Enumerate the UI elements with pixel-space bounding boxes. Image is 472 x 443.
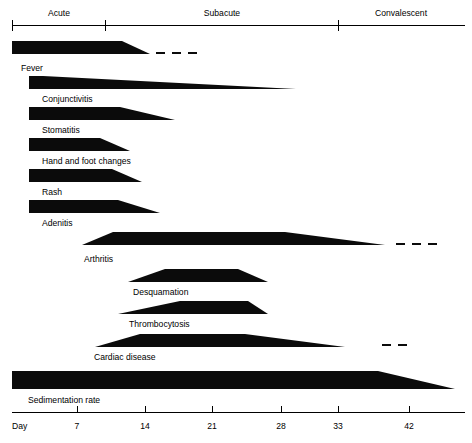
band-shape-rash bbox=[29, 169, 142, 182]
day-axis: Day 7 14 21 28 33 42 bbox=[12, 406, 465, 431]
band-label-hand-and-foot-changes: Hand and foot changes bbox=[42, 156, 131, 166]
band-label-rash: Rash bbox=[42, 187, 62, 197]
band-label-stomatitis: Stomatitis bbox=[42, 125, 80, 135]
band-label-cardiac-disease: Cardiac disease bbox=[94, 352, 156, 362]
band-adenitis: Adenitis bbox=[29, 200, 160, 228]
band-shape-desquamation bbox=[128, 269, 268, 282]
band-hand-and-foot-changes: Hand and foot changes bbox=[29, 138, 131, 166]
band-shape-stomatitis bbox=[29, 107, 175, 120]
phase-label-convalescent: Convalescent bbox=[375, 8, 428, 18]
band-label-fever: Fever bbox=[21, 63, 43, 73]
day-axis-label-14: 14 bbox=[140, 421, 150, 431]
day-axis-label-7: 7 bbox=[75, 421, 80, 431]
band-shape-hand-and-foot-changes bbox=[29, 138, 130, 151]
day-axis-label-33: 33 bbox=[333, 421, 343, 431]
band-shape-fever bbox=[12, 41, 150, 54]
band-shape-conjunctivitis bbox=[29, 76, 296, 89]
band-arthritis: Arthritis bbox=[82, 232, 437, 264]
day-axis-label-21: 21 bbox=[207, 421, 217, 431]
phase-label-subacute: Subacute bbox=[204, 8, 241, 18]
band-rash: Rash bbox=[29, 169, 142, 197]
band-conjunctivitis: Conjunctivitis bbox=[29, 76, 296, 104]
band-fever: Fever bbox=[12, 41, 197, 73]
band-label-desquamation: Desquamation bbox=[133, 287, 189, 297]
band-shape-arthritis bbox=[82, 232, 385, 245]
day-axis-label-28: 28 bbox=[276, 421, 286, 431]
phase-label-acute: Acute bbox=[48, 8, 70, 18]
band-label-thrombocytosis: Thrombocytosis bbox=[129, 319, 190, 329]
band-shape-sedimentation-rate bbox=[12, 371, 455, 389]
band-stomatitis: Stomatitis bbox=[29, 107, 175, 135]
band-cardiac-disease: Cardiac disease bbox=[94, 334, 407, 362]
day-axis-label-42: 42 bbox=[404, 421, 414, 431]
band-desquamation: Desquamation bbox=[128, 269, 268, 297]
band-sedimentation-rate: Sedimentation rate bbox=[12, 371, 455, 405]
band-label-arthritis: Arthritis bbox=[84, 254, 113, 264]
band-shape-thrombocytosis bbox=[118, 301, 268, 314]
band-shape-cardiac-disease bbox=[95, 334, 345, 347]
band-label-conjunctivitis: Conjunctivitis bbox=[42, 94, 93, 104]
band-label-sedimentation-rate: Sedimentation rate bbox=[28, 395, 100, 405]
band-thrombocytosis: Thrombocytosis bbox=[118, 301, 268, 329]
timeline-chart-svg: Acute Subacute Convalescent Fever Conjun… bbox=[0, 0, 472, 443]
band-shape-adenitis bbox=[29, 200, 160, 213]
kawasaki-timeline-figure: Acute Subacute Convalescent Fever Conjun… bbox=[0, 0, 472, 443]
band-label-adenitis: Adenitis bbox=[42, 218, 73, 228]
day-axis-title: Day bbox=[12, 421, 28, 431]
phase-axis: Acute Subacute Convalescent bbox=[12, 8, 465, 31]
